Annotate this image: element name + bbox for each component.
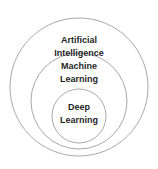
label-machine-learning-line2: Learning (0, 73, 158, 86)
label-deep-learning-line1: Deep (0, 101, 158, 114)
label-deep-learning: Deep Learning (0, 101, 158, 127)
label-artificial-intelligence-line2: Intelligence (0, 47, 158, 60)
label-artificial-intelligence: Artificial Intelligence (0, 34, 158, 60)
label-artificial-intelligence-line1: Artificial (0, 34, 158, 47)
label-deep-learning-line2: Learning (0, 114, 158, 127)
label-machine-learning-line1: Machine (0, 60, 158, 73)
venn-diagram: Artificial Intelligence Machine Learning… (0, 0, 158, 169)
label-machine-learning: Machine Learning (0, 60, 158, 86)
